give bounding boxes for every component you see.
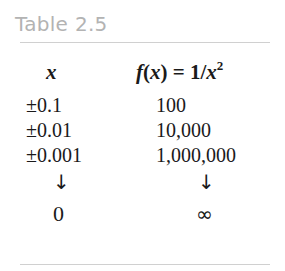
top-divider xyxy=(20,42,270,43)
table-title: Table 2.5 xyxy=(15,12,108,36)
row-3-fx: 1,000,000 xyxy=(156,143,236,167)
header-fx: f(x) = 1/x2 xyxy=(136,60,223,84)
bottom-divider xyxy=(20,264,270,265)
row-2-fx: 10,000 xyxy=(156,118,211,142)
row-3-x: ±0.001 xyxy=(26,143,82,167)
limit-x: 0 xyxy=(53,202,64,226)
row-1-x: ±0.1 xyxy=(26,93,62,117)
header-x: x xyxy=(46,60,57,84)
row-2-x: ±0.01 xyxy=(26,118,72,142)
row-1-fx: 100 xyxy=(156,93,186,117)
down-arrow-icon: ↓ xyxy=(53,170,70,194)
down-arrow-icon: ↓ xyxy=(198,170,215,194)
limit-fx-infinity: ∞ xyxy=(196,202,213,226)
